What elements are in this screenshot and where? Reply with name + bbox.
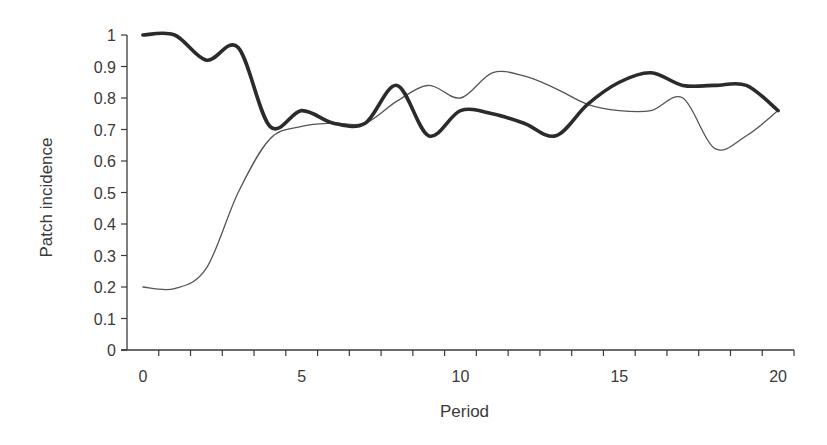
x-axis-ticks: 05101520 xyxy=(138,350,794,385)
series-line-thin xyxy=(143,71,778,289)
x-tick-label: 20 xyxy=(769,368,787,385)
series-layer xyxy=(143,33,778,290)
y-tick-label: 1 xyxy=(107,27,116,44)
y-tick-label: 0.8 xyxy=(94,90,116,107)
y-tick-label: 0.2 xyxy=(94,279,116,296)
x-tick-label: 0 xyxy=(138,368,147,385)
y-tick-label: 0 xyxy=(107,342,116,359)
y-tick-label: 0.5 xyxy=(94,185,116,202)
y-axis-ticks: 00.10.20.30.40.50.60.70.80.91 xyxy=(94,27,127,359)
y-tick-label: 0.1 xyxy=(94,311,116,328)
x-tick-label: 10 xyxy=(452,368,470,385)
line-chart: 00.10.20.30.40.50.60.70.80.91 05101520 P… xyxy=(0,0,827,445)
series-line-thick xyxy=(143,33,778,136)
y-tick-label: 0.6 xyxy=(94,153,116,170)
x-axis-title: Period xyxy=(440,402,489,421)
y-axis-title: Patch incidence xyxy=(37,137,56,257)
y-tick-label: 0.7 xyxy=(94,122,116,139)
y-tick-label: 0.3 xyxy=(94,248,116,265)
x-tick-label: 5 xyxy=(297,368,306,385)
y-tick-label: 0.4 xyxy=(94,216,116,233)
y-tick-label: 0.9 xyxy=(94,59,116,76)
x-tick-label: 15 xyxy=(610,368,628,385)
